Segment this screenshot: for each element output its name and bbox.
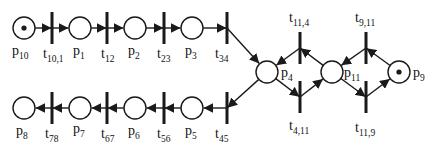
arc-t11_4-to-p4: [276, 48, 300, 65]
transition-t67: [106, 92, 109, 124]
transition-t11_9: [365, 81, 368, 113]
arc-p9-to-t9_11: [366, 48, 390, 65]
place-p11: [321, 61, 343, 83]
arc-p4-to-t45: [227, 79, 258, 107]
label-t12: t12: [101, 46, 115, 64]
label-p4: p4: [281, 65, 293, 83]
label-t45: t45: [215, 126, 229, 144]
label-t10_1: t10,1: [43, 46, 64, 64]
label-p5: p5: [185, 123, 197, 141]
label-p2: p2: [128, 43, 140, 61]
place-p7: [69, 97, 91, 119]
transitions-layer: [51, 12, 368, 124]
place-p6: [124, 97, 146, 119]
arc-t4_11-to-p11: [300, 79, 323, 97]
transition-t11_4: [299, 32, 302, 64]
transition-t78: [51, 92, 54, 124]
transition-t4_11: [299, 81, 302, 113]
place-p1: [69, 17, 91, 39]
label-p6: p6: [128, 123, 140, 141]
arc-p11-to-t11_4: [300, 48, 323, 65]
arc-t9_11-to-p11: [341, 48, 366, 65]
label-t23: t23: [157, 46, 171, 64]
arc-t34-to-p4: [227, 28, 259, 63]
place-p8: [13, 97, 35, 119]
label-t56: t56: [157, 126, 171, 144]
label-p7: p7: [73, 121, 85, 139]
transition-t12: [106, 12, 109, 44]
label-t11_9: t11,9: [355, 120, 375, 138]
label-t34: t34: [215, 46, 229, 64]
label-p8: p8: [16, 123, 28, 141]
transition-t9_11: [365, 32, 368, 64]
transition-t10_1: [51, 12, 54, 44]
label-t78: t78: [45, 126, 59, 144]
place-p5: [181, 97, 203, 119]
label-p3: p3: [185, 43, 197, 61]
transition-t45: [226, 92, 229, 124]
place-p2: [124, 17, 146, 39]
transition-t23: [163, 12, 166, 44]
place-p3: [181, 17, 203, 39]
transition-t34: [226, 12, 229, 44]
label-t67: t67: [101, 126, 115, 144]
transition-t56: [163, 92, 166, 124]
arc-t11_9-to-p9: [366, 79, 390, 97]
place-p4: [256, 61, 278, 83]
label-p9: p9: [413, 65, 425, 83]
token-icon: [396, 69, 401, 74]
label-t11_4: t11,4: [289, 10, 309, 28]
petri-net-diagram: p10p1p2p3p4p11p9p5p6p7p8t10,1t12t23t34t1…: [0, 0, 437, 145]
label-t4_11: t4,11: [289, 118, 309, 136]
label-p1: p1: [73, 43, 85, 61]
label-p10: p10: [12, 43, 29, 61]
token-icon: [21, 25, 26, 30]
label-p11: p11: [344, 65, 360, 83]
label-t9_11: t9,11: [355, 10, 375, 28]
